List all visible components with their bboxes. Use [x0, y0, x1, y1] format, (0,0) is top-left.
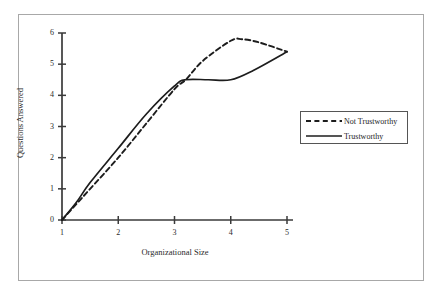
chart-legend: Not Trustworthy Trustworthy	[300, 111, 408, 144]
y-tick-label: 5	[40, 59, 54, 68]
y-tick-label: 4	[40, 90, 54, 99]
y-tick-label: 2	[40, 153, 54, 162]
series-line-trustworthy	[62, 52, 287, 220]
y-tick-label: 3	[40, 122, 54, 131]
x-tick-label: 1	[52, 228, 72, 237]
x-tick-label: 5	[277, 228, 297, 237]
legend-item-trustworthy: Trustworthy	[301, 128, 407, 144]
x-tick-label: 2	[108, 228, 128, 237]
legend-dashed-line-icon	[305, 115, 343, 127]
legend-label-not-trustworthy: Not Trustworthy	[344, 117, 397, 126]
legend-solid-line-icon	[305, 130, 343, 142]
chart-figure: 123450123456 Organizational Size Questio…	[0, 0, 443, 295]
y-tick-label: 1	[40, 184, 54, 193]
x-tick-label: 3	[165, 228, 185, 237]
x-axis-title: Organizational Size	[0, 247, 350, 257]
series-line-not-trustworthy	[62, 39, 287, 220]
y-axis-title: Questions Answered	[15, 73, 25, 173]
y-tick-label: 0	[40, 215, 54, 224]
x-tick-label: 4	[221, 228, 241, 237]
legend-label-trustworthy: Trustworthy	[344, 132, 383, 141]
y-tick-label: 6	[40, 28, 54, 37]
legend-item-not-trustworthy: Not Trustworthy	[301, 113, 407, 129]
